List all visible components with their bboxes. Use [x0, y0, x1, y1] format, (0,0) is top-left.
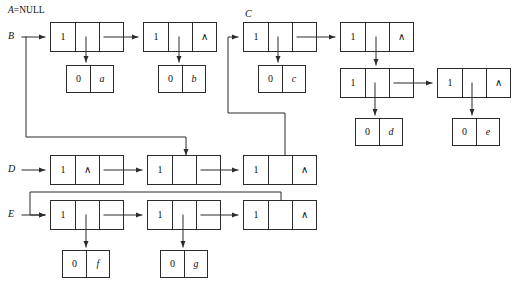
list-node-c4-field-1: 1: [438, 69, 462, 97]
list-node-e2-field-1: 1: [148, 201, 172, 229]
list-node-c2-field-2: [365, 23, 389, 51]
atom-f: 0f: [62, 250, 110, 278]
atom-e-value: e: [476, 119, 499, 145]
atom-f-value: f: [86, 251, 109, 277]
list-node-e3-field-3: ∧: [292, 201, 316, 229]
list-node-d2-field-2: [172, 156, 196, 184]
label-e: E: [8, 209, 14, 219]
list-node-b2: 1∧: [143, 22, 217, 52]
list-node-d3-field-1: 1: [244, 156, 268, 184]
c-loop-from-d3: [228, 37, 285, 155]
atom-g-tag: 0: [161, 251, 184, 277]
atom-d-tag: 0: [356, 119, 379, 145]
list-node-c3-field-3: [389, 69, 413, 97]
list-node-e1-field-1: 1: [51, 201, 75, 229]
list-node-e3: 1∧: [243, 200, 317, 230]
atom-e-tag: 0: [453, 119, 476, 145]
atom-f-tag: 0: [63, 251, 86, 277]
atom-b: 0b: [158, 65, 206, 93]
atom-g: 0g: [160, 250, 208, 278]
atom-c-value: c: [282, 66, 305, 92]
atom-c-tag: 0: [259, 66, 282, 92]
list-node-d2-field-1: 1: [148, 156, 172, 184]
list-node-e1: 1: [50, 200, 124, 230]
list-node-c2-field-1: 1: [341, 23, 365, 51]
atom-d: 0d: [355, 118, 403, 146]
list-node-b2-field-1: 1: [144, 23, 168, 51]
list-node-d3: 1∧: [243, 155, 317, 185]
list-node-d3-field-2: [268, 156, 292, 184]
label-a-eq: =NULL: [14, 5, 45, 15]
list-node-c1: 1: [243, 22, 317, 52]
atom-c: 0c: [258, 65, 306, 93]
list-node-e1-field-2: [75, 201, 99, 229]
atom-b-tag: 0: [159, 66, 182, 92]
list-node-b1-field-2: [75, 23, 99, 51]
list-node-e2-field-2: [172, 201, 196, 229]
b-shared-down-path: [26, 37, 186, 155]
list-node-d1-field-1: 1: [51, 156, 75, 184]
list-node-d1: 1∧: [50, 155, 124, 185]
atom-a-value: a: [90, 66, 113, 92]
label-c-head: C: [245, 9, 252, 19]
list-node-d2-field-3: [196, 156, 220, 184]
list-node-c3-field-1: 1: [341, 69, 365, 97]
linked-list-diagram-canvas: A=NULL C B D E 11∧11∧11∧1∧11∧111∧0a0b0c0…: [0, 0, 512, 290]
list-node-c4-field-3: ∧: [486, 69, 510, 97]
list-node-c4: 1∧: [437, 68, 511, 98]
list-node-c1-field-1: 1: [244, 23, 268, 51]
atom-a: 0a: [66, 65, 114, 93]
atom-d-value: d: [379, 119, 402, 145]
atom-e: 0e: [452, 118, 500, 146]
list-node-c1-field-2: [268, 23, 292, 51]
list-node-c3-field-2: [365, 69, 389, 97]
label-a-null: A=NULL: [8, 6, 45, 16]
list-node-d1-field-3: [99, 156, 123, 184]
list-node-b2-field-3: ∧: [192, 23, 216, 51]
list-node-d2: 1: [147, 155, 221, 185]
list-node-c2-field-3: ∧: [389, 23, 413, 51]
label-b: B: [8, 31, 14, 41]
list-node-e2: 1: [147, 200, 221, 230]
list-node-e1-field-3: [99, 201, 123, 229]
list-node-e3-field-2: [268, 201, 292, 229]
list-node-d1-field-2: ∧: [75, 156, 99, 184]
list-node-c2: 1∧: [340, 22, 414, 52]
list-node-e3-field-1: 1: [244, 201, 268, 229]
atom-b-value: b: [182, 66, 205, 92]
atom-g-value: g: [184, 251, 207, 277]
list-node-e2-field-3: [196, 201, 220, 229]
list-node-b1: 1: [50, 22, 124, 52]
atom-a-tag: 0: [67, 66, 90, 92]
list-node-b1-field-3: [99, 23, 123, 51]
list-node-b1-field-1: 1: [51, 23, 75, 51]
list-node-c3: 1: [340, 68, 414, 98]
list-node-b2-field-2: [168, 23, 192, 51]
list-node-c1-field-3: [292, 23, 316, 51]
label-d: D: [8, 164, 15, 174]
list-node-c4-field-2: [462, 69, 486, 97]
list-node-d3-field-3: ∧: [292, 156, 316, 184]
